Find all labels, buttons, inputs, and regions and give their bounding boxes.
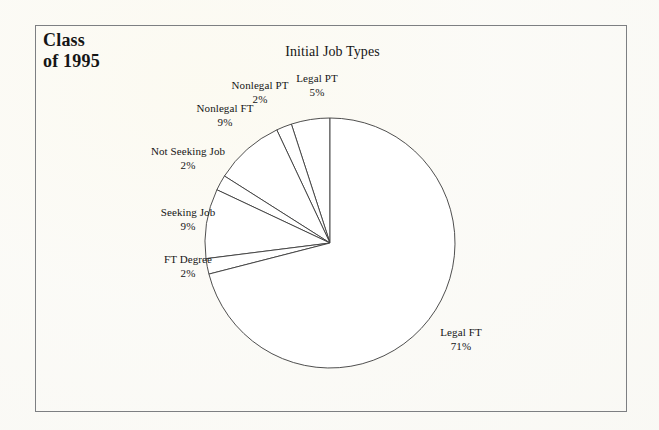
slice-label-percent: 5%: [286, 85, 348, 99]
slice-label-percent: 9%: [146, 219, 230, 233]
pie-chart-graphic: [0, 0, 659, 430]
slice-label-legal-pt: Legal PT 5%: [286, 71, 348, 99]
slice-label-percent: 2%: [148, 266, 228, 280]
slice-label-name: Seeking Job: [146, 205, 230, 219]
slice-label-name: FT Degree: [148, 252, 228, 266]
slice-label-legal-ft: Legal FT 71%: [426, 325, 496, 353]
chart-page: Class of 1995 Initial Job Types Nonlegal…: [0, 0, 659, 430]
slice-label-name: Legal PT: [286, 71, 348, 85]
slice-label-percent: 2%: [136, 158, 240, 172]
slice-label-nonlegal-ft: Nonlegal FT 9%: [184, 101, 266, 129]
slice-label-name: Legal FT: [426, 325, 496, 339]
pie-slices-group: [205, 118, 455, 368]
slice-label-name: Not Seeking Job: [136, 144, 240, 158]
slice-label-percent: 71%: [426, 339, 496, 353]
slice-label-seeking-job: Seeking Job 9%: [146, 205, 230, 233]
slice-label-percent: 9%: [184, 115, 266, 129]
slice-label-name: Nonlegal FT: [184, 101, 266, 115]
slice-label-not-seeking-job: Not Seeking Job 2%: [136, 144, 240, 172]
slice-label-ft-degree: FT Degree 2%: [148, 252, 228, 280]
